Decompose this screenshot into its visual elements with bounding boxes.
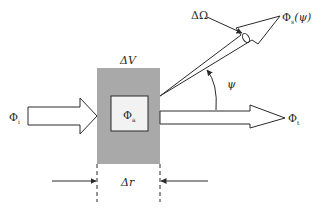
diagram-canvas: ΔV Φi Φa Φt Φs(ψ) ΔΩ ψ Δr [0,0,325,212]
transmitted-flux-label: Φt [288,112,300,126]
incident-flux-label: Φi [9,111,20,125]
scattered-flux-label: Φs(ψ) [282,11,311,25]
transmitted-arrow [160,105,285,128]
incident-arrow [28,98,97,134]
angle-label: ψ [227,78,236,91]
thickness-label: Δr [120,176,135,189]
solid-angle-label: ΔΩ [191,9,208,22]
angle-arc [207,70,216,110]
solid-angle-pointer [207,17,242,33]
scattered-arrow [160,16,280,96]
volume-label: ΔV [119,54,137,67]
